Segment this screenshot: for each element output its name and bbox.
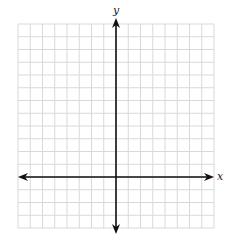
y-axis-label: y [113, 5, 119, 16]
x-axis-label: x [217, 171, 223, 182]
coordinate-plane [0, 0, 234, 244]
